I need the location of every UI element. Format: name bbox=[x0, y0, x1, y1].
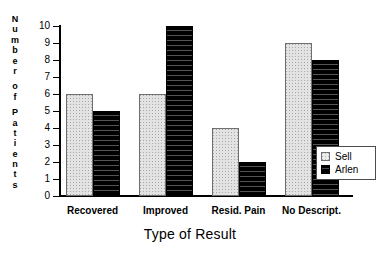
y-axis-tick-label: 9 bbox=[30, 38, 50, 48]
y-axis-tick-mark bbox=[53, 179, 59, 180]
legend-swatch-sell bbox=[321, 152, 330, 161]
y-axis-tick-mark bbox=[53, 111, 59, 112]
plot-area bbox=[60, 26, 352, 196]
y-axis-title-char: u bbox=[12, 24, 18, 34]
y-axis-tick-label: 4 bbox=[30, 123, 50, 133]
y-axis-title-char: e bbox=[12, 149, 17, 159]
y-axis-tick-label: 1 bbox=[30, 174, 50, 184]
y-axis-title-char: t bbox=[14, 128, 17, 138]
y-axis-tick-label: 2 bbox=[30, 157, 50, 167]
y-axis-title-char: n bbox=[12, 159, 18, 169]
y-axis-tick-mark bbox=[53, 162, 59, 163]
y-axis-title: NumberofPatients bbox=[6, 14, 24, 210]
y-axis-tick-label: 0 bbox=[30, 191, 50, 201]
bar-sell-1 bbox=[139, 94, 166, 196]
y-axis-tick-mark bbox=[53, 94, 59, 95]
y-axis-tick-mark bbox=[53, 145, 59, 146]
y-axis-tick-label: 3 bbox=[30, 140, 50, 150]
y-axis-title-char: r bbox=[13, 66, 17, 76]
y-axis-title-char: b bbox=[12, 45, 18, 55]
legend-label-sell: Sell bbox=[335, 151, 352, 162]
y-axis-title-char: e bbox=[12, 56, 17, 66]
legend-item-sell: Sell bbox=[321, 150, 371, 163]
y-axis-tick-label: 5 bbox=[30, 106, 50, 116]
bar-sell-2 bbox=[212, 128, 239, 196]
bar-sell-3 bbox=[285, 43, 312, 196]
y-axis-title-char: o bbox=[12, 81, 18, 91]
y-axis-title-char: s bbox=[12, 180, 17, 190]
y-axis-title-char: t bbox=[14, 169, 17, 179]
y-axis-tick-mark bbox=[53, 77, 59, 78]
y-axis-title-char: i bbox=[14, 138, 17, 148]
bar-arlen-1 bbox=[166, 26, 193, 196]
legend-item-arlen: Arlen bbox=[321, 163, 371, 176]
legend-swatch-arlen bbox=[321, 165, 330, 174]
y-axis-tick-mark bbox=[53, 60, 59, 61]
y-axis-title-char: N bbox=[12, 14, 19, 24]
y-axis-tick-mark bbox=[53, 128, 59, 129]
y-axis-tick-mark bbox=[53, 43, 59, 44]
y-axis-title-char: a bbox=[12, 118, 17, 128]
bar-sell-0 bbox=[66, 94, 93, 196]
y-axis-tick-label: 7 bbox=[30, 72, 50, 82]
legend-label-arlen: Arlen bbox=[335, 164, 358, 175]
y-axis-tick-mark bbox=[53, 196, 59, 197]
x-axis-category-label: No Descript. bbox=[262, 205, 362, 216]
y-axis-tick-label: 8 bbox=[30, 55, 50, 65]
legend: Sell Arlen bbox=[316, 146, 376, 180]
bar-chart: NumberofPatients 012345678910 RecoveredI… bbox=[0, 0, 380, 256]
x-axis-title: Type of Result bbox=[0, 226, 380, 242]
bar-arlen-2 bbox=[239, 162, 266, 196]
y-axis-tick-mark bbox=[53, 26, 59, 27]
y-axis-tick-label: 10 bbox=[30, 21, 50, 31]
y-axis-title-char: P bbox=[12, 107, 18, 117]
y-axis-title-char: m bbox=[11, 35, 19, 45]
bar-arlen-0 bbox=[93, 111, 120, 196]
y-axis-title-char: f bbox=[14, 92, 17, 102]
y-axis-tick-label: 6 bbox=[30, 89, 50, 99]
